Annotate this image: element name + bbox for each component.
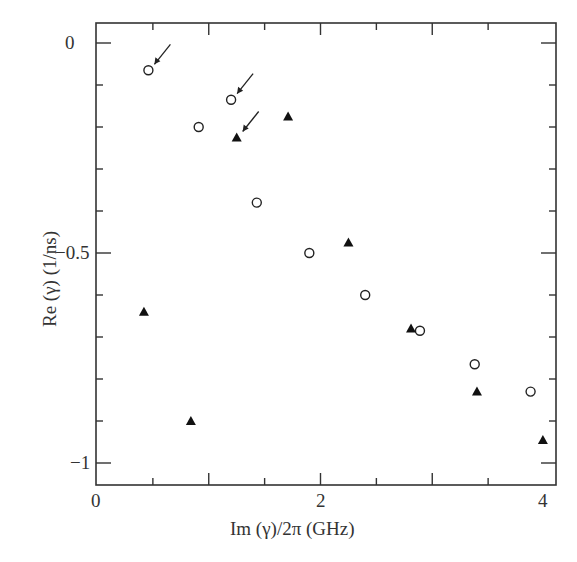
y-tick-label-minus-1: −1	[70, 452, 90, 474]
data-point-triangle	[232, 133, 242, 142]
data-point-circle	[470, 360, 479, 369]
data-point-circle	[305, 249, 314, 258]
data-point-triangle	[186, 416, 196, 425]
plot-frame	[96, 23, 556, 485]
data-point-circle	[415, 326, 424, 335]
x-tick-label-2: 2	[316, 490, 326, 512]
scatter-plot	[0, 0, 577, 562]
data-point-triangle	[139, 307, 149, 316]
data-point-circle	[252, 198, 261, 207]
data-point-triangle	[472, 387, 482, 396]
data-point-circle	[194, 123, 203, 132]
data-point-circle	[361, 291, 370, 300]
y-tick-label-0: 0	[65, 32, 75, 54]
x-tick-label-4: 4	[538, 490, 548, 512]
x-tick-label-0: 0	[91, 490, 101, 512]
y-axis-label: Re (γ) (1/ns)	[39, 199, 61, 359]
data-point-triangle	[343, 238, 353, 247]
data-point-circle	[227, 95, 236, 104]
data-point-circle	[144, 66, 153, 75]
data-point-triangle	[538, 435, 548, 444]
data-point-triangle	[406, 324, 416, 333]
data-point-circle	[526, 387, 535, 396]
x-axis-label: Im (γ)/2π (GHz)	[230, 518, 355, 540]
data-point-triangle	[283, 112, 293, 121]
